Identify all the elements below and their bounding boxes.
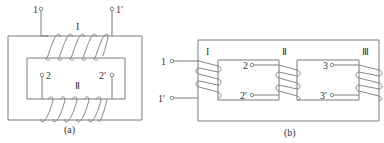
terminal-1p-b — [170, 96, 174, 100]
winding-label-II-b: Ⅱ — [282, 46, 287, 57]
terminal-1-b — [170, 59, 174, 63]
caption-b: (b) — [284, 127, 296, 139]
transformer-diagrams: 1 1′ I 2 2′ Ⅱ — [0, 0, 384, 143]
diagram-b: I Ⅱ Ⅲ 1 1′ 2 2′ — [158, 40, 382, 139]
terminal-label-2p-a: 2′ — [99, 70, 106, 81]
winding-label-II-a: Ⅱ — [75, 80, 80, 91]
terminal-2-a — [40, 73, 44, 77]
terminal-label-3-b: 3 — [323, 60, 328, 71]
coil-I-b — [196, 61, 221, 98]
winding-label-III-b: Ⅲ — [362, 46, 369, 57]
winding-label-I-b: I — [206, 46, 209, 57]
winding-label-I-a: I — [76, 21, 79, 32]
coil-III-b — [356, 65, 382, 100]
diagram-a: 1 1′ I 2 2′ Ⅱ — [8, 4, 142, 136]
terminal-2p-b — [250, 93, 254, 97]
terminal-3p-b — [330, 93, 334, 97]
primary-coil-a — [41, 34, 108, 60]
terminal-label-3p-b: 3′ — [320, 90, 327, 101]
caption-a: (a) — [64, 124, 75, 136]
terminal-2p-a — [110, 73, 114, 77]
terminal-label-1p-b: 1′ — [158, 93, 165, 104]
terminal-label-1-a: 1 — [33, 4, 38, 15]
terminal-label-1p-a: 1′ — [116, 4, 123, 15]
core-window-1-b — [218, 60, 279, 100]
secondary-coil-a — [41, 97, 107, 122]
terminal-label-2-b: 2 — [243, 60, 248, 71]
coil-II-b — [276, 65, 300, 100]
terminal-1-a — [39, 7, 43, 11]
terminal-3-b — [330, 63, 334, 67]
terminal-label-1-b: 1 — [161, 56, 166, 67]
terminal-label-2p-b: 2′ — [240, 90, 247, 101]
terminal-label-2-a: 2 — [46, 70, 51, 81]
terminal-2-b — [250, 63, 254, 67]
terminal-1p-a — [110, 7, 114, 11]
core-window-2-b — [297, 60, 359, 100]
